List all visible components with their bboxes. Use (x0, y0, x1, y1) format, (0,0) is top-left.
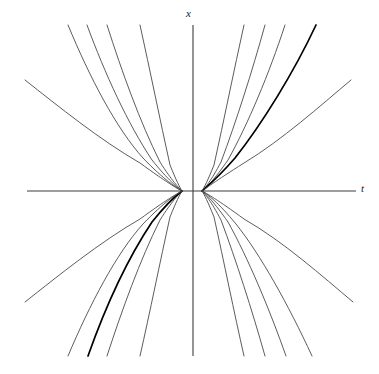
solution-curve (202, 191, 286, 356)
solution-curve (25, 191, 182, 302)
solution-curve (202, 25, 265, 191)
vertical-axis-label: x (186, 8, 191, 19)
plot-canvas (0, 0, 379, 374)
solution-curve (25, 80, 182, 191)
horizontal-axis-label: t (361, 183, 364, 194)
solution-curve (202, 191, 353, 302)
solution-curve (87, 25, 182, 191)
solution-curve (140, 191, 182, 356)
solution-curve (88, 191, 182, 356)
solution-curve (202, 25, 244, 191)
solution-curve (202, 25, 285, 191)
solution-curve (140, 25, 182, 191)
solution-curve (202, 191, 265, 356)
solution-curve (68, 25, 182, 191)
phase-plot-figure: x t (0, 0, 379, 374)
solution-curve (68, 191, 182, 356)
